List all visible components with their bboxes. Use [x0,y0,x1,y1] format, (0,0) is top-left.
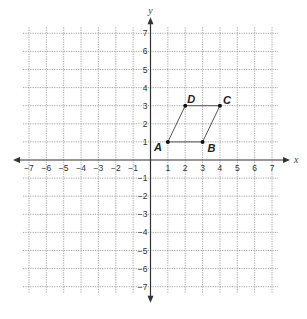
y-tick-label: 4 [143,83,148,93]
arrow-right-icon [283,157,290,163]
y-tick-label: 2 [143,119,148,129]
x-tick-label: −5 [59,163,69,173]
point-label-d: D [187,93,195,105]
y-tick-label: −2 [138,191,148,201]
x-axis-label: x [293,154,299,165]
y-tick-label: 1 [143,137,148,147]
coordinate-plane: −7−6−5−4−3−2−112345677654321−1−2−3−4−5−6… [0,0,307,319]
point-label-a: A [153,141,162,153]
point-c [218,104,222,108]
x-tick-label: −2 [111,163,121,173]
x-tick-label: −1 [128,163,138,173]
point-label-c: C [223,94,232,106]
axes [13,17,290,302]
y-tick-label: −6 [138,264,148,274]
y-tick-label: 5 [143,65,148,75]
x-tick-label: 1 [165,163,170,173]
point-label-b: B [208,142,216,154]
point-a [166,140,170,144]
y-tick-label: −3 [138,209,148,219]
y-tick-label: −1 [138,173,148,183]
y-tick-label: 6 [143,46,148,56]
x-tick-label: −6 [41,163,51,173]
x-tick-label: 4 [218,163,223,173]
x-tick-label: −7 [24,163,34,173]
x-tick-label: −4 [76,163,86,173]
arrow-up-icon [148,17,154,24]
x-tick-label: 5 [235,163,240,173]
x-tick-label: 6 [252,163,257,173]
arrow-left-icon [13,157,20,163]
x-tick-label: 7 [270,163,275,173]
y-tick-label: −5 [138,246,148,256]
y-tick-label: 3 [143,101,148,111]
arrow-down-icon [148,296,154,303]
y-tick-label: 7 [143,28,148,38]
y-tick-label: −4 [138,227,148,237]
y-axis-label: y [147,5,153,16]
x-tick-label: 2 [183,163,188,173]
point-b [201,140,205,144]
x-tick-label: 3 [200,163,205,173]
y-tick-label: −7 [138,282,148,292]
x-tick-label: −3 [94,163,104,173]
